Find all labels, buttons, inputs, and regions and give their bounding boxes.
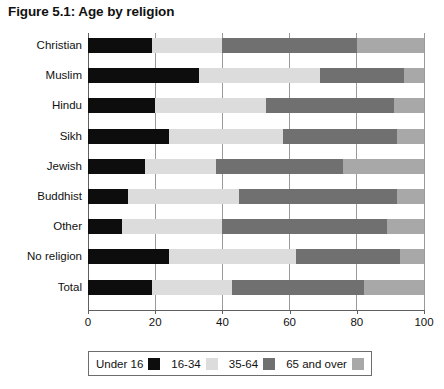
bar-segment (400, 249, 424, 264)
bar-row (88, 38, 424, 53)
category-axis-labels: ChristianMuslimHinduSikhJewishBuddhistOt… (0, 33, 82, 310)
bar-row (88, 159, 424, 174)
bar-segment (122, 219, 223, 234)
x-axis-tick-label: 40 (202, 316, 242, 328)
x-axis: 020406080100 (88, 310, 425, 340)
x-axis-tick (222, 310, 223, 314)
bar-segment (266, 98, 394, 113)
legend-item: Under 16 (96, 358, 160, 370)
bar-segment (88, 98, 155, 113)
bar-segment (152, 280, 233, 295)
bar-row (88, 280, 424, 295)
x-axis-tick-label: 20 (135, 316, 175, 328)
bar-segment (239, 189, 397, 204)
category-label: Muslim (0, 69, 82, 81)
bar-segment (222, 38, 356, 53)
legend-item-label: 35-64 (229, 358, 258, 370)
bar-row (88, 129, 424, 144)
bar-segment (404, 68, 424, 83)
bar-row (88, 68, 424, 83)
category-label: Christian (0, 39, 82, 51)
bar-segment (397, 129, 424, 144)
bar-segment (88, 249, 169, 264)
bar-segment (397, 189, 424, 204)
category-label: Buddhist (0, 190, 82, 202)
legend-item-label: 65 and over (286, 358, 347, 370)
bar-segment (88, 38, 152, 53)
chart-legend: Under 1616-3435-6465 and over (88, 351, 372, 376)
page-title: Figure 5.1: Age by religion (8, 4, 174, 19)
bar-segment (216, 159, 344, 174)
bar-segment (88, 219, 122, 234)
bar-segment (296, 249, 400, 264)
bar-segment (357, 38, 424, 53)
x-axis-line (88, 310, 425, 311)
bar-row (88, 98, 424, 113)
bar-segment (169, 249, 297, 264)
category-label: No religion (0, 250, 82, 262)
bar-segment (394, 98, 424, 113)
category-label: Other (0, 220, 82, 232)
bar-segment (364, 280, 424, 295)
bar-segment (387, 219, 424, 234)
bar-segment (88, 159, 145, 174)
legend-item-label: Under 16 (96, 358, 143, 370)
x-axis-tick (424, 310, 425, 314)
bar-segment (155, 98, 266, 113)
legend-item: 16-34 (171, 358, 217, 370)
bar-segment (128, 189, 239, 204)
x-axis-tick-label: 60 (270, 316, 310, 328)
category-label: Total (0, 281, 82, 293)
bar-segment (199, 68, 320, 83)
category-label: Jewish (0, 160, 82, 172)
bar-row (88, 219, 424, 234)
bar-row (88, 189, 424, 204)
legend-item: 65 and over (286, 358, 364, 370)
legend-swatch-icon (263, 358, 275, 370)
bar-segment (222, 219, 387, 234)
x-axis-tick (290, 310, 291, 314)
bar-segment (283, 129, 397, 144)
legend-item: 35-64 (229, 358, 275, 370)
bar-segment (88, 129, 169, 144)
figure-container: Figure 5.1: Age by religion ChristianMus… (0, 0, 444, 389)
x-axis-tick (155, 310, 156, 314)
bar-segment (88, 189, 128, 204)
x-axis-tick (88, 310, 89, 314)
legend-swatch-icon (352, 358, 364, 370)
x-axis-tick-label: 80 (337, 316, 377, 328)
bar-segment (88, 280, 152, 295)
legend-swatch-icon (148, 358, 160, 370)
legend-item-label: 16-34 (171, 358, 200, 370)
bar-segment (320, 68, 404, 83)
bar-segment (145, 159, 216, 174)
bar-segment (88, 68, 199, 83)
x-axis-tick-label: 0 (68, 316, 108, 328)
x-axis-tick-label: 100 (404, 316, 444, 328)
bar-segment (152, 38, 223, 53)
legend-swatch-icon (206, 358, 218, 370)
plot-area (88, 33, 424, 310)
bar-segment (343, 159, 424, 174)
category-label: Hindu (0, 99, 82, 111)
bar-segment (232, 280, 363, 295)
x-axis-tick (357, 310, 358, 314)
bar-segment (169, 129, 283, 144)
category-label: Sikh (0, 130, 82, 142)
bar-row (88, 249, 424, 264)
